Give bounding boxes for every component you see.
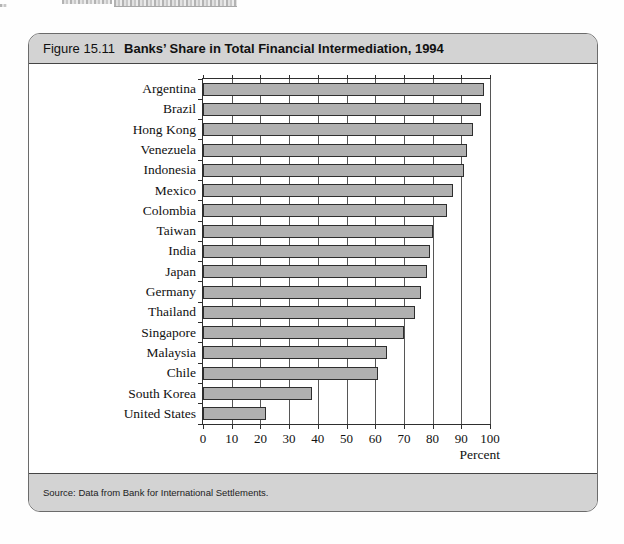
x-tick-mark-bottom	[203, 424, 204, 429]
bar-row: Brazil	[203, 99, 490, 119]
bar-row: Malaysia	[203, 343, 490, 363]
x-tick-label: 60	[369, 431, 382, 447]
bar-label: India	[168, 243, 196, 259]
bar	[203, 367, 378, 380]
gridline	[490, 79, 491, 424]
bar-label: Indonesia	[144, 162, 196, 178]
figure-title: Banks’ Share in Total Financial Intermed…	[124, 41, 444, 56]
bar	[203, 184, 453, 197]
bar-row: Mexico	[203, 180, 490, 200]
chart-area: Percent 0102030405060708090100ArgentinaB…	[29, 64, 597, 473]
bar-row: Taiwan	[203, 221, 490, 241]
page-edge-underlined-text-fragment	[114, 0, 237, 7]
page-edge-text-fragment	[62, 0, 112, 4]
bar-row: Germany	[203, 282, 490, 302]
x-tick-mark-bottom	[232, 424, 233, 429]
bar-label: Malaysia	[147, 345, 197, 361]
x-tick-mark-top	[490, 75, 491, 79]
x-tick-label: 70	[397, 431, 410, 447]
page-edge-text-fragment	[0, 4, 7, 7]
bar-label: Germany	[146, 284, 196, 300]
x-tick-label: 50	[340, 431, 353, 447]
bar-row: Singapore	[203, 323, 490, 343]
figure-header: Figure 15.11 Banks’ Share in Total Finan…	[29, 34, 597, 64]
bar	[203, 346, 387, 359]
bar	[203, 204, 447, 217]
bar	[203, 265, 427, 278]
x-tick-mark-bottom	[347, 424, 348, 429]
x-tick-label: 30	[283, 431, 296, 447]
x-tick-label: 90	[455, 431, 468, 447]
bar	[203, 103, 481, 116]
bar	[203, 387, 312, 400]
bar-label: Colombia	[143, 203, 196, 219]
bar-row: Hong Kong	[203, 120, 490, 140]
x-tick-mark-bottom	[461, 424, 462, 429]
bar	[203, 306, 415, 319]
bar-label: Argentina	[142, 81, 196, 97]
bar-row: South Korea	[203, 383, 490, 403]
x-tick-mark-bottom	[375, 424, 376, 429]
bar	[203, 164, 464, 177]
bar-label: Chile	[167, 365, 196, 381]
bar-label: United States	[124, 406, 196, 422]
bar-label: Brazil	[163, 101, 196, 117]
bar-label: Japan	[165, 264, 196, 280]
source-note: Source: Data from Bank for International…	[43, 487, 268, 498]
bar	[203, 225, 433, 238]
bar-label: Thailand	[148, 304, 196, 320]
x-tick-mark-bottom	[260, 424, 261, 429]
bar-label: Singapore	[141, 325, 196, 341]
bar	[203, 83, 484, 96]
bar-row: Japan	[203, 262, 490, 282]
bar	[203, 144, 467, 157]
bar-label: Venezuela	[141, 142, 196, 158]
bar-row: Colombia	[203, 201, 490, 221]
x-tick-label: 0	[200, 431, 207, 447]
figure-footer: Source: Data from Bank for International…	[29, 473, 597, 511]
x-tick-label: 40	[311, 431, 324, 447]
bar-row: Chile	[203, 363, 490, 383]
x-tick-mark-bottom	[433, 424, 434, 429]
x-tick-label: 80	[426, 431, 439, 447]
x-tick-mark-bottom	[490, 424, 491, 429]
bar-chart-plot: Percent 0102030405060708090100ArgentinaB…	[202, 78, 490, 425]
bar-row: Venezuela	[203, 140, 490, 160]
x-tick-mark-bottom	[404, 424, 405, 429]
bar-label: South Korea	[128, 386, 196, 402]
x-tick-mark-bottom	[318, 424, 319, 429]
bar	[203, 286, 421, 299]
bar	[203, 407, 266, 420]
bar	[203, 123, 473, 136]
x-tick-label: 20	[254, 431, 267, 447]
bar-row: Thailand	[203, 302, 490, 322]
figure-number: Figure 15.11	[43, 41, 115, 56]
bar-label: Taiwan	[156, 223, 196, 239]
bar	[203, 326, 404, 339]
bar-row: Argentina	[203, 79, 490, 99]
bar-row: United States	[203, 404, 490, 424]
x-tick-label: 10	[225, 431, 238, 447]
bar-label: Hong Kong	[133, 122, 196, 138]
x-tick-mark-bottom	[289, 424, 290, 429]
bar-row: India	[203, 241, 490, 261]
bar-row: Indonesia	[203, 160, 490, 180]
x-axis-unit-label: Percent	[460, 447, 500, 463]
bar-label: Mexico	[155, 183, 196, 199]
bar	[203, 245, 430, 258]
figure-box: Figure 15.11 Banks’ Share in Total Finan…	[28, 33, 598, 512]
x-tick-label: 100	[480, 431, 500, 447]
